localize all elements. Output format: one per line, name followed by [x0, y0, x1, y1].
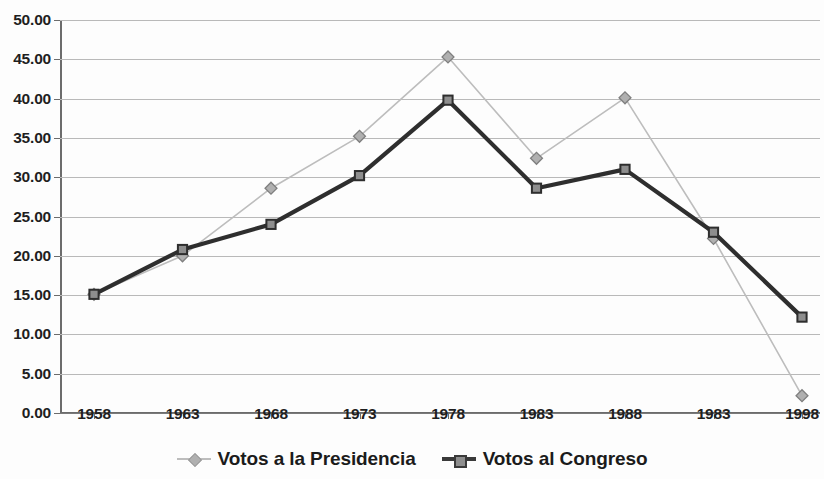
- data-point-marker: [89, 290, 98, 299]
- y-axis-tick-label: 25.00: [13, 208, 51, 226]
- data-point-marker: [266, 220, 275, 229]
- y-axis-tick-label: 15.00: [13, 286, 51, 304]
- y-axis-tick-label: 0.00: [22, 404, 51, 422]
- data-point-marker: [709, 228, 718, 237]
- data-point-marker: [619, 92, 631, 104]
- data-point-marker: [178, 245, 187, 254]
- y-axis-tick-label: 10.00: [13, 325, 51, 343]
- plot-area: 0.005.0010.0015.0020.0025.0030.0035.0040…: [60, 20, 820, 413]
- y-axis-tick-label: 40.00: [13, 90, 51, 108]
- x-axis-tick-label: 1983: [520, 405, 554, 423]
- y-axis-tick-label: 45.00: [13, 50, 51, 68]
- y-axis-tick-label: 5.00: [22, 365, 51, 383]
- data-point-marker: [355, 171, 364, 180]
- x-axis-tick-label: 1973: [343, 405, 377, 423]
- legend-swatch-square-icon: [442, 452, 476, 466]
- legend-label-congreso: Votos al Congreso: [483, 448, 648, 470]
- y-axis-tick-label: 50.00: [13, 11, 51, 29]
- legend-label-presidencia: Votos a la Presidencia: [218, 448, 416, 470]
- data-point-marker: [620, 165, 629, 174]
- y-axis-tick-label: 35.00: [13, 129, 51, 147]
- legend-swatch-diamond-icon: [177, 452, 211, 466]
- y-tick-mark: [54, 413, 60, 414]
- x-axis-tick-label: 1963: [166, 405, 200, 423]
- data-point-marker: [443, 96, 452, 105]
- y-axis-tick-label: 30.00: [13, 168, 51, 186]
- line-chart: 0.005.0010.0015.0020.0025.0030.0035.0040…: [0, 0, 824, 479]
- x-axis-tick-label: 1968: [254, 405, 288, 423]
- series-layer: [60, 20, 820, 413]
- x-axis-tick-label: 1978: [431, 405, 465, 423]
- data-point-marker: [796, 390, 808, 402]
- series-line-presidencia: [94, 57, 802, 396]
- chart-title-cutoff: [0, 0, 824, 9]
- x-axis-tick-label: 1988: [608, 405, 642, 423]
- series-line-congreso: [94, 100, 802, 317]
- x-axis-tick-label: 1958: [77, 405, 111, 423]
- y-axis-tick-label: 20.00: [13, 247, 51, 265]
- x-axis-tick-label: 1983: [697, 405, 731, 423]
- legend-item-presidencia[interactable]: Votos a la Presidencia: [177, 448, 416, 470]
- data-point-marker: [797, 313, 806, 322]
- legend: Votos a la Presidencia Votos al Congreso: [0, 448, 824, 470]
- x-axis-tick-label: 1998: [785, 405, 819, 423]
- legend-item-congreso[interactable]: Votos al Congreso: [442, 448, 648, 470]
- data-point-marker: [532, 184, 541, 193]
